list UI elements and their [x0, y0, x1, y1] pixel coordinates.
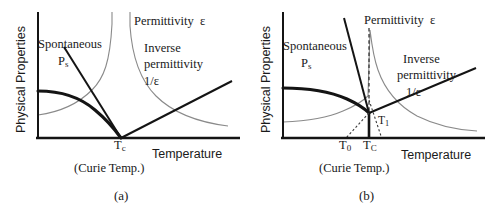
- ps-label: Ps: [301, 57, 311, 72]
- y-axis-label: Physical Properties: [14, 26, 28, 133]
- inverse-permittivity-label-line1: Inverse: [144, 42, 181, 55]
- figure-ferroelectric-phase-transitions: Physical Properties Spontaneous Ps Permi…: [0, 0, 491, 214]
- curie-temp-note: (Curie Temp.): [74, 162, 144, 175]
- permittivity-label: Permittivity ε: [364, 14, 435, 27]
- permittivity-label: Permittivity ε: [134, 15, 205, 28]
- y-axis-label: Physical Properties: [259, 26, 273, 133]
- t1-marker-label: T1: [378, 114, 389, 129]
- t0-marker-label: T0: [339, 139, 351, 154]
- permittivity-curve-left: [283, 96, 368, 122]
- inverse-permittivity-label-line1: Inverse: [403, 53, 440, 66]
- spontaneous-label: Spontaneous: [283, 40, 347, 53]
- panel-a: Physical Properties Spontaneous Ps Permi…: [0, 0, 246, 214]
- panel-b-plot: [245, 0, 491, 214]
- inverse-permittivity-line-right: [121, 81, 232, 138]
- spontaneous-polarization-curve: [38, 91, 121, 138]
- extrapolation-to-t0-dotted: [346, 113, 369, 138]
- inverse-permittivity-label-line2: permittivity: [144, 58, 203, 71]
- tc-marker-label: Tc: [114, 139, 126, 154]
- tc-marker-label: TC: [363, 139, 377, 154]
- panel-a-plot: [0, 0, 246, 214]
- x-axis-label: Temperature: [401, 148, 471, 162]
- ps-label: Ps: [58, 55, 68, 70]
- spontaneous-polarization-curve: [283, 88, 369, 113]
- x-axis-label: Temperature: [152, 147, 222, 161]
- panel-b: Physical Properties Spontaneous Ps Permi…: [245, 0, 491, 214]
- panel-b-caption: (b): [359, 188, 374, 204]
- panel-a-caption: (a): [114, 188, 128, 204]
- inverse-permittivity-symbol: 1/ε: [144, 75, 159, 88]
- spontaneous-label: Spontaneous: [38, 38, 102, 51]
- inverse-permittivity-line-left: [64, 47, 121, 138]
- inverse-permittivity-symbol: 1/ε: [406, 86, 421, 99]
- inverse-permittivity-label-line2: permittivity: [397, 69, 456, 82]
- curie-temp-note: (Curie Temp.): [319, 162, 389, 175]
